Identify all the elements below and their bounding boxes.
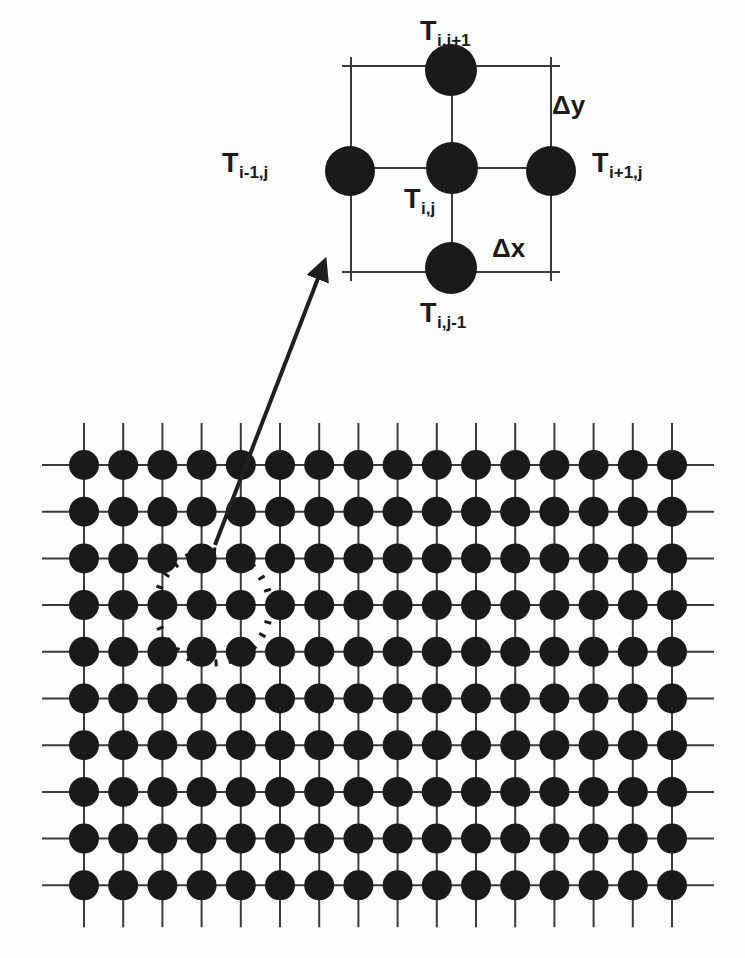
mesh-node <box>618 637 648 667</box>
mesh-node <box>226 824 256 854</box>
mesh-node <box>343 730 373 760</box>
mesh-node <box>657 450 687 480</box>
mesh-node <box>383 777 413 807</box>
mesh-node <box>383 870 413 900</box>
mesh-node <box>657 497 687 527</box>
mesh-node <box>147 450 177 480</box>
label-subscript: i,j+1 <box>437 31 471 50</box>
mesh-node <box>422 637 452 667</box>
mesh-node <box>539 543 569 573</box>
mesh-node <box>539 777 569 807</box>
mesh-node <box>657 543 687 573</box>
mesh-node <box>265 497 295 527</box>
mesh-node <box>187 684 217 714</box>
mesh-node <box>147 824 177 854</box>
mesh-node <box>500 497 530 527</box>
mesh-node <box>461 543 491 573</box>
stencil-node-south <box>425 242 477 294</box>
mesh-node <box>147 497 177 527</box>
mesh-node <box>579 637 609 667</box>
mesh-node <box>383 450 413 480</box>
mesh-node <box>226 590 256 620</box>
mesh-node <box>304 637 334 667</box>
mesh-node <box>618 870 648 900</box>
mesh-node <box>108 777 138 807</box>
mesh-node <box>539 870 569 900</box>
mesh-node <box>383 590 413 620</box>
mesh-node <box>226 870 256 900</box>
mesh-node <box>343 777 373 807</box>
mesh-node <box>187 824 217 854</box>
label-t-i-plus-1-j: Ti+1,j <box>592 150 643 181</box>
mesh-node <box>69 824 99 854</box>
mesh-node <box>147 777 177 807</box>
mesh-node <box>108 730 138 760</box>
label-t-i-j-minus-1: Ti,j-1 <box>420 300 466 331</box>
mesh-node <box>461 684 491 714</box>
mesh-node <box>618 497 648 527</box>
mesh-node <box>265 543 295 573</box>
mesh-node <box>422 590 452 620</box>
label-base: T <box>592 148 609 178</box>
mesh-node <box>147 590 177 620</box>
mesh-node <box>147 870 177 900</box>
mesh-node <box>461 590 491 620</box>
mesh-node <box>657 684 687 714</box>
label-subscript: i-1,j <box>239 163 268 182</box>
mesh-node <box>304 590 334 620</box>
figure-vector-layer <box>0 0 745 958</box>
mesh-node <box>304 684 334 714</box>
mesh-node <box>226 777 256 807</box>
mesh-node <box>187 450 217 480</box>
mesh-node <box>69 777 99 807</box>
mesh-node <box>500 730 530 760</box>
mesh-node <box>657 637 687 667</box>
mesh-node <box>226 730 256 760</box>
mesh-node <box>618 824 648 854</box>
mesh-node <box>265 637 295 667</box>
mesh-node <box>579 450 609 480</box>
mesh-node <box>383 543 413 573</box>
mesh-node <box>187 870 217 900</box>
mesh-node <box>579 730 609 760</box>
mesh-node <box>187 777 217 807</box>
mesh-node <box>579 590 609 620</box>
mesh-node <box>422 870 452 900</box>
mesh-node <box>461 497 491 527</box>
mesh-grid-group <box>42 423 714 927</box>
mesh-node <box>69 870 99 900</box>
mesh-node <box>265 824 295 854</box>
mesh-node <box>539 824 569 854</box>
mesh-node <box>461 450 491 480</box>
mesh-node <box>108 590 138 620</box>
mesh-node <box>500 684 530 714</box>
mesh-node <box>618 590 648 620</box>
mesh-node <box>618 543 648 573</box>
mesh-node <box>461 730 491 760</box>
mesh-node <box>69 450 99 480</box>
mesh-node <box>108 870 138 900</box>
mesh-node <box>461 777 491 807</box>
mesh-node <box>69 590 99 620</box>
mesh-node <box>422 450 452 480</box>
mesh-node <box>343 497 373 527</box>
mesh-node <box>147 684 177 714</box>
mesh-node <box>579 824 609 854</box>
mesh-node <box>343 870 373 900</box>
mesh-node <box>304 543 334 573</box>
mesh-node <box>461 637 491 667</box>
mesh-node <box>500 637 530 667</box>
mesh-node <box>383 730 413 760</box>
mesh-node <box>579 684 609 714</box>
label-base: T <box>404 184 421 214</box>
mesh-node <box>579 497 609 527</box>
mesh-node <box>539 450 569 480</box>
mesh-node <box>383 497 413 527</box>
mesh-node <box>304 497 334 527</box>
label-delta-y: Δy <box>552 92 585 118</box>
mesh-node <box>383 824 413 854</box>
mesh-node <box>226 684 256 714</box>
mesh-node <box>108 824 138 854</box>
mesh-node <box>618 777 648 807</box>
mesh-node <box>618 450 648 480</box>
